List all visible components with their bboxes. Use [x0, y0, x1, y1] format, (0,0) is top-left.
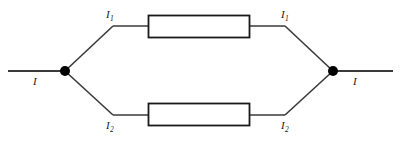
- label-input-current: I: [33, 76, 37, 87]
- label-branch2-left-subscript: 2: [110, 125, 114, 134]
- label-input-current-symbol: I: [33, 75, 37, 87]
- junction-node-right: [328, 66, 338, 76]
- upper-branch-right-diagonal-wire: [285, 26, 333, 71]
- label-branch1-left: I1: [106, 9, 113, 20]
- junction-node-left: [60, 66, 70, 76]
- label-branch1-right-subscript: 1: [285, 14, 289, 23]
- label-output-current: I: [353, 76, 357, 87]
- label-branch1-right: I1: [281, 9, 288, 20]
- label-output-current-symbol: I: [353, 75, 357, 87]
- resistor-lower: [149, 104, 250, 126]
- upper-branch-left-diagonal-wire: [65, 26, 113, 71]
- label-branch1-left-subscript: 1: [110, 14, 114, 23]
- resistor-upper: [149, 16, 250, 38]
- lower-branch-left-diagonal-wire: [65, 71, 113, 115]
- label-branch2-right-subscript: 2: [285, 125, 289, 134]
- label-branch2-left: I2: [106, 120, 113, 131]
- lower-branch-right-diagonal-wire: [285, 71, 333, 115]
- circuit-schematic-canvas: [0, 0, 401, 145]
- circuit-diagram: I I I1 I1 I2 I2: [0, 0, 401, 145]
- label-branch2-right: I2: [281, 120, 288, 131]
